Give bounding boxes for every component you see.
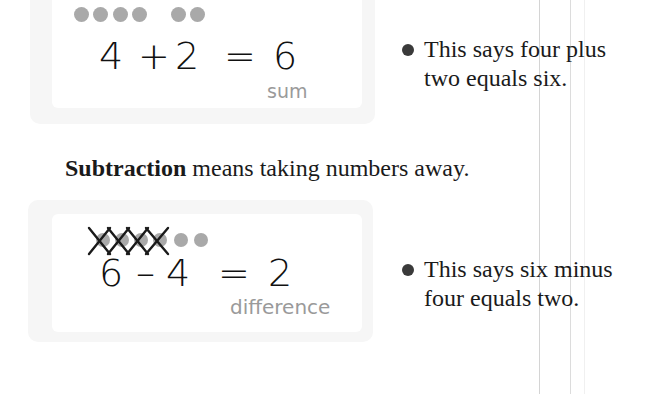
- equals-sign: =: [218, 254, 250, 292]
- result: 6: [273, 37, 297, 75]
- counter-dot: [190, 7, 205, 22]
- bullet-icon: [402, 44, 414, 56]
- bullet-line: two equals six.: [424, 65, 567, 91]
- bullet-line: This says four plus: [424, 36, 606, 62]
- counter-dot: [194, 233, 208, 247]
- plus-sign: +: [138, 37, 170, 75]
- subtraction-definition: Subtraction means taking numbers away.: [65, 154, 469, 182]
- counter-dot: [74, 7, 89, 22]
- counter-dot: [93, 7, 108, 22]
- bullet-icon: [402, 264, 414, 276]
- sum-label: sum: [267, 81, 307, 101]
- definition-text: means taking numbers away.: [186, 155, 469, 181]
- bullet-line: This says six minus: [424, 256, 613, 282]
- equals-sign: =: [224, 37, 256, 75]
- bullet-line: four equals two.: [424, 285, 579, 311]
- operand-a: 6: [99, 254, 123, 292]
- term-subtraction: Subtraction: [65, 155, 186, 181]
- counter-dot: [174, 233, 188, 247]
- result: 2: [268, 254, 292, 292]
- counter-dot: [132, 7, 147, 22]
- difference-label: difference: [230, 297, 330, 317]
- counter-dot: [113, 7, 128, 22]
- minus-sign: –: [136, 254, 155, 292]
- operand-b: 4: [166, 254, 190, 292]
- operand-b: 2: [175, 37, 199, 75]
- operand-a: 4: [99, 37, 123, 75]
- counter-dot: [171, 7, 186, 22]
